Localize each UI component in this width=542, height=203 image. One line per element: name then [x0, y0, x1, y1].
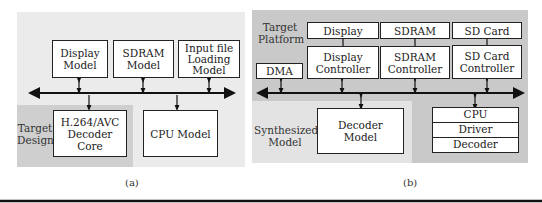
caption-b: (b)	[403, 177, 417, 188]
sdram-controller-label: SDRAM Controller	[385, 51, 445, 75]
driver-layer: Driver	[433, 123, 518, 138]
decoder-core-box: H.264/AVC Decoder Core	[53, 110, 127, 157]
sdram-controller-box: SDRAM Controller	[380, 46, 450, 79]
synthesized-model-label: Synthesized Model	[254, 124, 316, 148]
cpu-stack: CPU Driver Decoder	[432, 107, 519, 153]
sd-card-box: SD Card	[452, 22, 522, 39]
dma-label: DMA	[266, 65, 293, 77]
sdram-model-label: SDRAM Model	[122, 47, 166, 71]
display-model-box: Display Model	[52, 40, 108, 78]
display-controller-label: Display Controller	[313, 51, 373, 75]
cpu-model-label: CPU Model	[150, 128, 210, 140]
cpu-model-box: CPU Model	[143, 110, 218, 157]
decoder-layer: Decoder	[433, 138, 518, 152]
cpu-layer: CPU	[433, 108, 518, 123]
decoder-model-label: Decoder Model	[337, 119, 385, 143]
display-model-label: Display Model	[60, 47, 100, 71]
display-box: Display	[307, 22, 379, 39]
caption-a: (a)	[125, 177, 139, 188]
figure: Display Model SDRAM Model Input file Loa…	[0, 0, 542, 203]
sd-card-label: SD Card	[465, 25, 510, 37]
target-platform-label: Target Platform	[258, 21, 302, 45]
decoder-model-box: Decoder Model	[317, 108, 404, 154]
sdram-label: SDRAM	[394, 25, 436, 37]
decoder-core-label: H.264/AVC Decoder Core	[58, 116, 122, 152]
input-file-loading-model-box: Input file Loading Model	[178, 40, 240, 78]
display-controller-box: Display Controller	[307, 46, 379, 79]
display-label: Display	[323, 25, 362, 37]
sd-card-controller-box: SD Card Controller	[452, 45, 522, 79]
sd-card-controller-label: SD Card Controller	[457, 50, 517, 74]
target-design-label: Target Design	[17, 122, 53, 146]
sdram-model-box: SDRAM Model	[113, 40, 174, 78]
dma-box: DMA	[256, 63, 303, 79]
sdram-box: SDRAM	[380, 22, 450, 39]
input-file-loading-model-label: Input file Loading Model	[182, 43, 236, 76]
